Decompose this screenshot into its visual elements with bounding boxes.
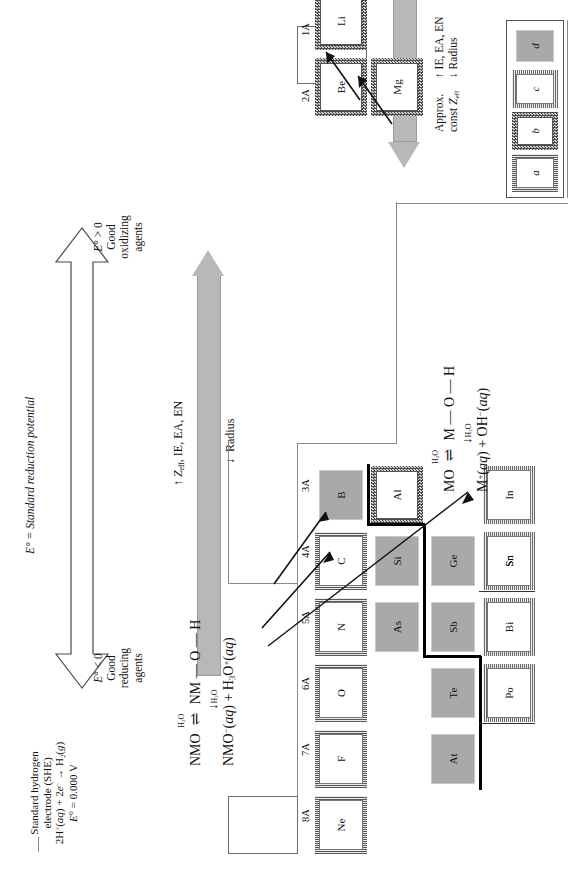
nonmetal-oxide-equation: NMO H2O ⇌ NM — O — H ↓H2O NMO−(aq) + H3O… bbox=[186, 620, 237, 766]
mo-down-arrow: ↓H2O bbox=[459, 318, 475, 444]
mo-line-2: M+(aq) + OH−(aq) bbox=[475, 366, 491, 492]
nmo-down-arrow: ↓H2O bbox=[205, 564, 221, 710]
mo-line-1: MO H2O ⇌ M — O — H bbox=[440, 366, 458, 492]
metal-oxide-equation: MO H2O ⇌ M — O — H ↓H2O M+(aq) + OH−(aq) bbox=[440, 366, 491, 492]
leader-lines bbox=[0, 0, 578, 884]
legend-label-d: d bbox=[529, 43, 541, 49]
figure-canvas: Standard hydrogen electrode (SHE) 2H+(aq… bbox=[0, 0, 578, 884]
legend-label-b: b bbox=[529, 128, 541, 134]
legend-label-a: a bbox=[529, 170, 541, 176]
legend-label-c: c bbox=[529, 87, 541, 92]
nmo-line-1: NMO H2O ⇌ NM — O — H bbox=[186, 620, 204, 766]
nmo-line-2: NMO−(aq) + H3O+(aq) bbox=[221, 620, 237, 766]
